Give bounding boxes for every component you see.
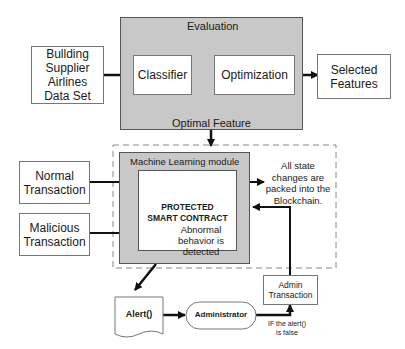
ml-module-label: Machine Learning module [130, 156, 239, 167]
protected-contract-title: PROTECTED SMART CONTRACT [140, 202, 235, 224]
abnormal-line: behavior is [172, 235, 230, 246]
blockchain-line: Blockchain. [262, 195, 334, 207]
classifier-label: Classifier [138, 68, 187, 82]
protected-line: PROTECTED [140, 202, 235, 213]
normal-line: Normal [35, 169, 74, 183]
optimization-label: Optimization [221, 68, 288, 82]
admin-transaction-line: Transaction [268, 290, 312, 300]
classifier-box: Classifier [133, 55, 192, 95]
evaluation-label: Evaluation [187, 20, 238, 32]
administrator-label: Administrator [186, 310, 256, 319]
normal-transaction-box: Normal Transaction [19, 161, 90, 204]
blockchain-note: All state changes are packed into the Bl… [262, 160, 334, 206]
selected-features-line: Selected [331, 63, 378, 77]
abnormal-label: Abnormal behavior is detected [172, 224, 230, 257]
condition-label: IF the alert() is false [262, 319, 312, 337]
normal-line: Transaction [23, 183, 85, 197]
optimal-feature-label: Optimal Feature [172, 117, 251, 129]
blockchain-line: changes are [262, 172, 334, 184]
dataset-line: Bullding [46, 47, 89, 61]
malicious-line: Transaction [23, 235, 85, 249]
selected-features-box: Selected Features [317, 54, 391, 99]
dataset-line: Data Set [44, 89, 91, 103]
condition-line: is false [262, 328, 312, 337]
dataset-box: Bullding Supplier Airlines Data Set [31, 46, 104, 104]
abnormal-line: detected [172, 246, 230, 257]
admin-transaction-line: Admin [278, 280, 302, 290]
selected-features-line: Features [330, 77, 377, 91]
abnormal-line: Abnormal [172, 224, 230, 235]
malicious-line: Malicious [29, 221, 79, 235]
protected-line: SMART CONTRACT [140, 213, 235, 224]
admin-transaction-box: Admin Transaction [263, 275, 318, 305]
dataset-line: Supplier [45, 61, 89, 75]
malicious-transaction-box: Malicious Transaction [19, 213, 90, 256]
blockchain-line: All state [262, 160, 334, 172]
alert-label: Alert() [115, 309, 163, 319]
blockchain-line: packed into the [262, 183, 334, 195]
dataset-line: Airlines [48, 75, 87, 89]
optimization-box: Optimization [214, 55, 295, 95]
condition-line: IF the alert() [262, 319, 312, 328]
